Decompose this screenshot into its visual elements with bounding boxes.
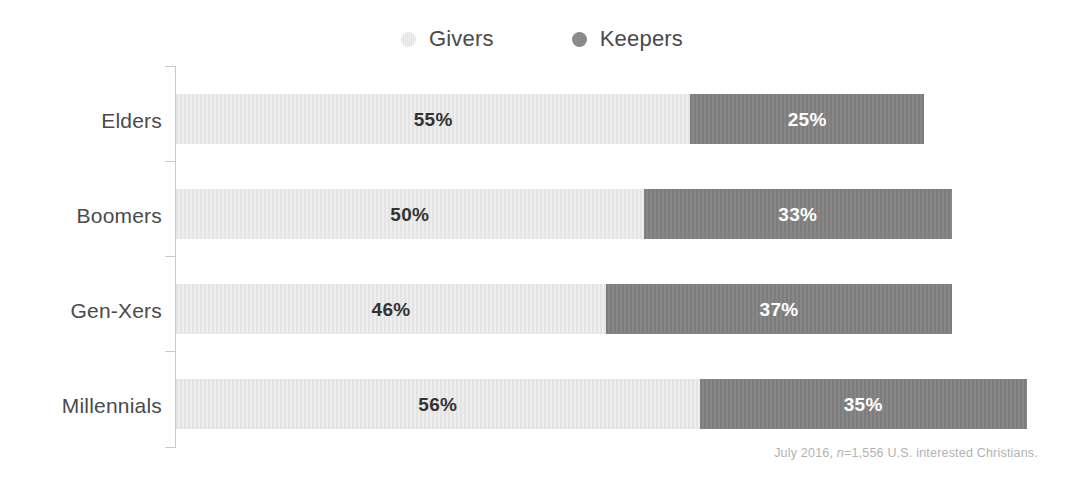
axis-tick [165,256,175,257]
stacked-bar-chart: Elders Boomers Gen-Xers Millennials 55% … [0,66,1084,466]
bar-segment-keepers: 35% [700,379,1027,429]
bar-value-label: 46% [372,300,411,319]
table-row: 55% 25% [176,94,924,144]
bar-segment-keepers: 33% [644,189,953,239]
category-label-millennials: Millennials [0,394,162,418]
bar-value-label: 56% [418,395,457,414]
category-label-gen-xers: Gen-Xers [0,299,162,323]
bar-segment-keepers: 37% [606,284,952,334]
bar-value-label: 55% [414,110,453,129]
circle-icon [401,32,416,47]
legend-item-keepers: Keepers [572,28,683,50]
circle-icon [572,32,587,47]
footnote-prefix: July 2016, [774,446,837,460]
axis-tick [165,447,175,448]
legend-label-keepers: Keepers [600,28,683,50]
legend-item-givers: Givers [401,28,494,50]
bar-value-label: 25% [788,110,827,129]
bar-segment-keepers: 25% [690,94,924,144]
footnote-italic-n: n [837,446,844,460]
axis-tick [165,66,175,67]
table-row: 56% 35% [176,379,1027,429]
bar-value-label: 33% [778,205,817,224]
table-row: 46% 37% [176,284,952,334]
axis-tick [165,161,175,162]
chart-footnote: July 2016, n=1,556 U.S. interested Chris… [774,446,1038,460]
category-label-boomers: Boomers [0,204,162,228]
axis-tick [165,351,175,352]
category-label-elders: Elders [0,109,162,133]
legend-label-givers: Givers [429,28,494,50]
bar-value-label: 50% [390,205,429,224]
table-row: 50% 33% [176,189,952,239]
bar-segment-givers: 55% [176,94,690,144]
bar-segment-givers: 46% [176,284,606,334]
footnote-suffix: =1,556 U.S. interested Christians. [844,446,1038,460]
bar-segment-givers: 56% [176,379,700,429]
category-axis-labels: Elders Boomers Gen-Xers Millennials [0,66,162,448]
bar-segment-givers: 50% [176,189,644,239]
bar-value-label: 35% [844,395,883,414]
bar-value-label: 37% [760,300,799,319]
chart-legend: Givers Keepers [0,22,1084,56]
